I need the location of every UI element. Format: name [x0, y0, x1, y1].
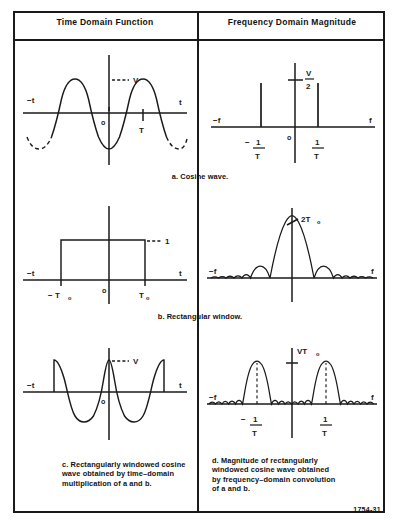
plot-c-time-domain: V −t t o	[13, 334, 197, 446]
plot-a-amplitude-label: V	[133, 76, 139, 85]
plot-b-amplitude-label: 1	[165, 237, 170, 246]
column-header-time-domain: Time Domain Function	[13, 17, 197, 27]
plot-d-left-lobe-numerator: 1	[253, 415, 258, 424]
plot-a-freq-axis-left-label: −f	[213, 116, 221, 125]
plot-a-frequency-domain: V 2 −f f o − 1 T 1 T	[199, 41, 385, 169]
plot-d-right-lobe-numerator: 1	[323, 415, 328, 424]
plot-d-frequency-domain: VT o −f f − 1 T 1 T	[199, 334, 385, 446]
plot-c-time-axis-left-label: −t	[27, 381, 35, 390]
plot-a-time-axis-left-label: −t	[27, 96, 35, 105]
caption-d-line-3: by frequency–domain convolution	[218, 475, 368, 484]
plot-c-time-axis-right-label: t	[179, 381, 182, 390]
plot-b-freq-axis-left-label: −f	[209, 267, 217, 276]
plot-b-right-edge-label: T	[139, 291, 144, 300]
caption-c-line-2: wave obtained by time–domain	[68, 469, 198, 478]
caption-d-line-1: d. Magnitude of rectangularly	[218, 456, 368, 465]
plot-d-left-lobe-denominator: T	[252, 429, 257, 438]
plot-a-origin-label: o	[101, 118, 106, 127]
plot-d-freq-axis-right-label: f	[371, 393, 374, 402]
plot-a-wave-dashed-right	[167, 137, 188, 149]
plot-b-frequency-domain: 2T o −f f	[199, 196, 385, 308]
plot-c-amplitude-label: V	[133, 357, 139, 366]
plot-b-time-axis-right-label: t	[179, 269, 182, 278]
plot-a-freq-axis-right-label: f	[369, 116, 372, 125]
plot-a-time-domain: V T −t t o	[13, 41, 197, 169]
figure-number: 1754-31	[353, 506, 381, 513]
plot-b-left-edge-label: − T	[48, 291, 60, 300]
caption-b: b. Rectangular window.	[58, 312, 342, 321]
plot-b-freq-axis-right-label: f	[371, 267, 374, 276]
plot-a-period-label: T	[139, 126, 144, 135]
caption-c-line-1: c. Rectangularly windowed cosine	[68, 460, 198, 469]
column-header-frequency-domain: Frequency Domain Magnitude	[199, 17, 385, 27]
plot-a-right-impulse-denominator: T	[314, 152, 319, 161]
plot-a-left-impulse-numerator: 1	[256, 138, 261, 147]
plot-a-right-impulse-numerator: 1	[315, 138, 320, 147]
plot-d-freq-axis-left-label: −f	[209, 393, 217, 402]
plot-b-time-axis-left-label: −t	[27, 269, 35, 278]
caption-c-line-3: multiplication of a and b.	[68, 479, 198, 488]
plot-a-left-impulse-denominator: T	[255, 152, 260, 161]
plot-b-origin-label: o	[102, 286, 107, 295]
caption-d: d. Magnitude of rectangularly windowed c…	[212, 456, 368, 494]
plot-d-peak-subscript: o	[316, 351, 320, 357]
figure-page: Time Domain Function Frequency Domain Ma…	[0, 0, 398, 529]
plot-b-right-edge-subscript: o	[146, 295, 150, 301]
caption-a: a. Cosine wave.	[70, 172, 330, 181]
caption-c: c. Rectangularly windowed cosine wave ob…	[62, 460, 198, 488]
plot-b-rectangular-pulse	[61, 240, 145, 280]
plot-d-right-lobe-denominator: T	[322, 429, 327, 438]
plot-b-time-domain: 1 −t t o − T o T o	[13, 196, 197, 308]
plot-a-amplitude-numerator: V	[306, 69, 312, 78]
plot-a-time-axis-right-label: t	[179, 98, 182, 107]
plot-a-amplitude-denominator: 2	[306, 82, 311, 91]
plot-b-left-edge-subscript: o	[68, 295, 72, 301]
plot-d-left-lobe-sign: −	[241, 415, 246, 424]
plot-c-origin-label: o	[101, 397, 106, 406]
caption-d-line-2: windowed cosine wave obtained	[218, 465, 368, 474]
caption-d-line-4: of a and b.	[218, 484, 368, 493]
plot-a-wave-dashed-left	[27, 137, 52, 149]
plot-d-peak-label: VT	[297, 347, 307, 356]
plot-a-freq-origin-label: o	[287, 133, 292, 142]
plot-b-peak-label: 2T	[301, 215, 310, 224]
plot-a-left-impulse-sign: −	[245, 138, 250, 147]
plot-b-peak-subscript: o	[317, 219, 321, 225]
